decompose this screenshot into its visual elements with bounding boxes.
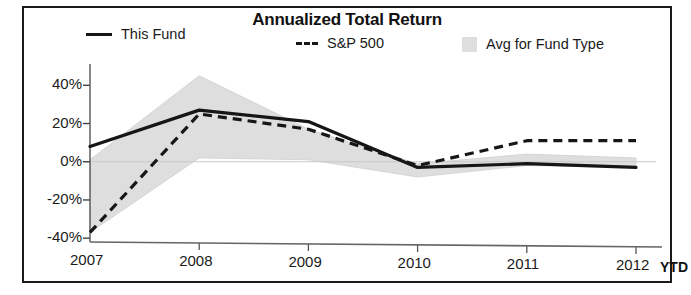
x-axis-tick-label: 2010 <box>398 254 431 271</box>
x-axis-tick-label: 2011 <box>507 255 539 272</box>
series-band-avg-for-fund-type <box>90 76 636 233</box>
y-axis-tick-label: -20% <box>24 190 82 207</box>
x-axis-tick-label: 2007 <box>70 251 103 268</box>
y-axis-tick-label: 0% <box>24 152 82 169</box>
x-axis-tick-label: 2008 <box>179 252 212 269</box>
x-axis-tick-label: 2009 <box>288 253 321 270</box>
x-axis-ytd-label: YTD <box>660 259 688 275</box>
y-axis-tick-label: 20% <box>24 114 82 131</box>
y-axis-tick-label: 40% <box>24 75 82 92</box>
plot-area <box>24 8 674 285</box>
y-axis-tick-label: -40% <box>24 228 82 245</box>
chart-card: Annualized Total Return This Fund S&P 50… <box>22 6 672 283</box>
x-axis-tick-label: 2012 <box>616 256 649 273</box>
